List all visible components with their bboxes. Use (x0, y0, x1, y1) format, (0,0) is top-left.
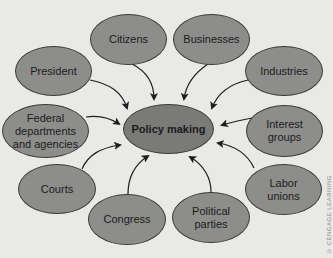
node-label-line: groups (266, 131, 303, 144)
node-label: Courts (41, 183, 73, 196)
node-president: President (15, 46, 92, 96)
arrow-courts (82, 145, 120, 169)
arrow-businesses (184, 64, 208, 99)
node-label: Industries (260, 65, 308, 78)
arrow-labor (218, 143, 254, 168)
arrow-parties (190, 157, 211, 192)
center-label: Policy making (132, 123, 206, 136)
node-citizens: Citizens (90, 14, 167, 65)
node-label-line: unions (267, 190, 299, 203)
node-label-line: Federal (13, 112, 78, 125)
node-labor-unions: Labor unions (245, 164, 322, 215)
node-congress: Congress (88, 194, 166, 245)
arrow-citizens (132, 64, 154, 99)
node-label-line: and agencies (13, 138, 78, 151)
node-label-line: parties (192, 218, 230, 231)
node-courts: Courts (18, 164, 96, 214)
node-federal-departments: Federal departments and agencies (2, 104, 89, 158)
node-label: Citizens (109, 33, 148, 46)
node-label-line: Labor (267, 177, 299, 190)
node-label-line: Interest (266, 118, 303, 131)
node-label-line: departments (13, 125, 78, 138)
node-political-parties: Political parties (172, 192, 250, 243)
arrow-congress (128, 156, 148, 194)
copyright-notice: © CENGAGE LEARNING (326, 175, 332, 254)
arrow-federal (86, 116, 119, 124)
arrow-industries (212, 80, 248, 108)
node-industries: Industries (245, 46, 323, 96)
node-interest-groups: Interest groups (246, 105, 323, 157)
node-label-line: Political (192, 205, 230, 218)
node-label: Businesses (183, 33, 239, 46)
node-policy-making: Policy making (123, 104, 214, 154)
node-businesses: Businesses (173, 14, 250, 65)
node-label: President (30, 65, 76, 78)
node-label: Congress (103, 213, 150, 226)
arrow-president (90, 80, 127, 108)
